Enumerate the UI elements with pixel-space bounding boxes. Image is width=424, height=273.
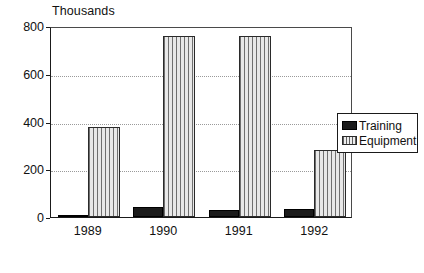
x-axis-tick-label: 1990: [149, 224, 177, 238]
bar-equipment-1991: [239, 36, 271, 217]
plot-area: [50, 27, 352, 218]
y-axis-tick-label: 600: [0, 68, 44, 82]
x-axis-tick-label: 1989: [74, 224, 102, 238]
y-axis-tick-mark: [46, 218, 50, 219]
gridline: [51, 124, 351, 125]
bar-equipment-1990: [163, 36, 195, 217]
bar-chart: Thousands 0200400600800 1989199019911992…: [0, 0, 424, 273]
legend-item-training[interactable]: Training: [342, 118, 414, 133]
legend-swatch-training-icon: [342, 121, 357, 130]
legend-swatch-equipment-icon: [342, 136, 357, 145]
y-axis-tick-label: 800: [0, 20, 44, 34]
bar-training-1990: [133, 207, 163, 217]
gridline: [51, 76, 351, 77]
bar-training-1991: [209, 210, 239, 217]
x-axis-tick-label: 1992: [300, 224, 328, 238]
legend-item-equipment[interactable]: Equipment: [342, 133, 414, 148]
legend: TrainingEquipment: [337, 113, 418, 153]
bar-training-1989: [58, 215, 88, 217]
bar-training-1992: [284, 209, 314, 217]
legend-label: Training: [359, 120, 402, 132]
bar-equipment-1989: [88, 127, 120, 217]
y-axis-tick-label: 200: [0, 163, 44, 177]
bar-equipment-1992: [314, 150, 346, 217]
y-axis-tick-label: 400: [0, 116, 44, 130]
x-axis-tick-label: 1991: [225, 224, 253, 238]
y-axis-title: Thousands: [52, 4, 115, 18]
legend-label: Equipment: [359, 135, 416, 147]
y-axis-tick-label: 0: [0, 211, 44, 225]
